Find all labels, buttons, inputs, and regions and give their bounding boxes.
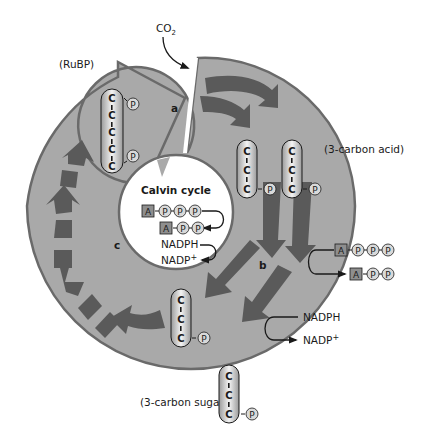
svg-text:C: C [288, 184, 295, 195]
co2-label: CO2 [156, 22, 176, 37]
svg-text:C: C [243, 165, 250, 176]
svg-text:C: C [108, 93, 115, 104]
svg-text:P: P [267, 185, 273, 195]
svg-text:C: C [288, 146, 295, 157]
svg-text:P: P [355, 246, 361, 256]
outer-adp: A P P [350, 268, 394, 280]
svg-text:C: C [177, 333, 184, 344]
svg-text:P: P [201, 334, 207, 344]
three-carbon-sugar-output: C C C P [219, 365, 258, 423]
svg-text:A: A [338, 246, 345, 256]
svg-text:P: P [192, 207, 198, 217]
svg-text:P: P [370, 270, 376, 280]
three-carbon-sugar-label: (3-carbon sugar) [140, 396, 228, 408]
calvin-cycle-title: Calvin cycle [141, 184, 211, 196]
svg-text:P: P [385, 270, 391, 280]
svg-text:C: C [225, 390, 232, 401]
svg-text:A: A [163, 224, 170, 234]
svg-text:C: C [225, 371, 232, 382]
calvin-cycle-diagram: CO2 (RuBP) C C C C C P P a b c (3-carbon… [0, 0, 425, 444]
flow-arrow-left-7 [60, 170, 78, 188]
svg-text:P: P [249, 410, 255, 420]
svg-text:C: C [177, 314, 184, 325]
svg-text:P: P [130, 152, 136, 162]
stage-b-label: b [259, 259, 267, 271]
svg-text:P: P [370, 246, 376, 256]
svg-text:A: A [145, 207, 152, 217]
svg-text:C: C [288, 165, 295, 176]
svg-text:C: C [108, 110, 115, 121]
outer-nadp-label: NADP+ [303, 333, 339, 346]
outer-atp: A P P P [335, 244, 394, 256]
stage-a-label: a [171, 102, 178, 114]
inner-nadph-label: NADPH [161, 238, 198, 250]
flow-arrow-left-4 [54, 250, 72, 268]
stage-c-label: c [114, 239, 120, 251]
svg-text:C: C [243, 146, 250, 157]
svg-text:P: P [177, 207, 183, 217]
svg-text:P: P [312, 185, 318, 195]
three-carbon-acid-label: (3-carbon acid) [324, 143, 404, 155]
svg-text:P: P [130, 100, 136, 110]
svg-text:P: P [162, 207, 168, 217]
co2-input: CO2 [156, 22, 188, 68]
rubp-label: (RuBP) [59, 58, 94, 70]
svg-text:P: P [385, 246, 391, 256]
svg-text:C: C [108, 144, 115, 155]
svg-text:P: P [180, 224, 186, 234]
inner-adp: A P P [160, 222, 204, 234]
svg-text:C: C [225, 409, 232, 420]
svg-text:C: C [108, 161, 115, 172]
svg-text:P: P [195, 224, 201, 234]
svg-text:A: A [353, 270, 360, 280]
flow-arrow-left-5 [54, 220, 72, 238]
svg-text:C: C [177, 295, 184, 306]
co2-arrow [163, 37, 188, 68]
svg-text:C: C [108, 127, 115, 138]
svg-text:C: C [243, 184, 250, 195]
outer-nadph-label: NADPH [303, 311, 340, 323]
